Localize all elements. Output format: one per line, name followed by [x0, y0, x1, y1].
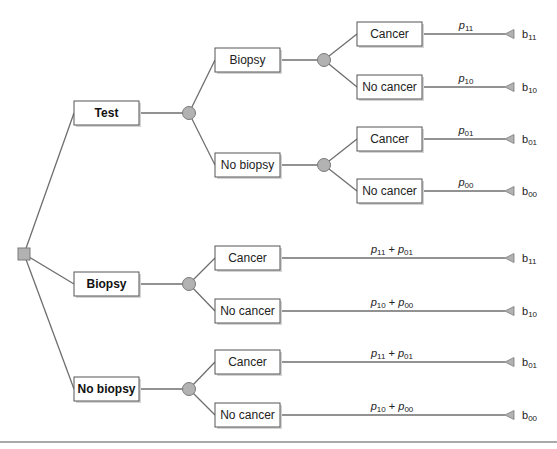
chance-node-test-biopsy-icon[interactable] — [318, 54, 331, 67]
node-box-no-biopsy[interactable]: No biopsy — [74, 377, 141, 403]
chance-node-test-icon[interactable] — [183, 107, 196, 120]
prob-label: p01 — [457, 124, 474, 138]
node-box-test-biopsy-no-cancer[interactable]: No cancer — [357, 75, 424, 101]
node-label: No cancer — [362, 80, 417, 94]
node-label: Cancer — [228, 355, 267, 369]
node-box-test-biopsy[interactable]: Biopsy — [215, 48, 282, 74]
terminal-triangle-icon[interactable] — [505, 135, 514, 144]
prob-label: p11 + p01 — [370, 347, 414, 361]
root-branches — [24, 113, 74, 389]
node-label-biopsy: Biopsy — [86, 277, 126, 291]
node-box-no-biopsy-cancer[interactable]: Cancer — [215, 350, 282, 376]
terminal-triangle-icon[interactable] — [505, 254, 514, 263]
node-box-test[interactable]: Test — [74, 101, 141, 127]
node-label: Cancer — [370, 132, 409, 146]
prob-label: p10 + p00 — [370, 400, 414, 414]
terminal-triangle-icon[interactable] — [505, 83, 514, 92]
payoff-label: b10 — [522, 305, 538, 319]
node-box-test-biopsy-cancer[interactable]: Cancer — [357, 22, 424, 48]
prob-label: p00 — [457, 176, 474, 190]
payoff-label: b01 — [522, 356, 538, 370]
decision-node-square-icon[interactable] — [18, 248, 30, 260]
payoff-label: b01 — [522, 133, 538, 147]
prob-label: p11 — [458, 19, 474, 33]
terminal-triangle-icon[interactable] — [505, 358, 514, 367]
node-label: Biopsy — [229, 53, 265, 67]
terminal-triangle-icon[interactable] — [505, 187, 514, 196]
chance-node-biopsy-icon[interactable] — [183, 278, 196, 291]
chance-node-no-biopsy-icon[interactable] — [183, 383, 196, 396]
prob-label: p11 + p01 — [370, 243, 414, 257]
payoff-label: b11 — [522, 28, 537, 42]
payoff-label: b10 — [522, 81, 538, 95]
node-label: No cancer — [220, 408, 275, 422]
chance-node-test-no-biopsy-icon[interactable] — [318, 159, 331, 172]
node-box-biopsy-no-cancer[interactable]: No cancer — [215, 299, 282, 325]
terminal-triangle-icon[interactable] — [505, 307, 514, 316]
node-box-no-biopsy-no-cancer[interactable]: No cancer — [215, 403, 282, 429]
payoff-label: b11 — [522, 252, 537, 266]
node-label: No biopsy — [221, 158, 274, 172]
prob-label: p10 + p00 — [370, 296, 414, 310]
node-label: Cancer — [370, 27, 409, 41]
decision-tree-diagram: Test Biopsy No biopsy Biopsy No biopsy C… — [0, 0, 557, 449]
node-box-test-no-biopsy[interactable]: No biopsy — [215, 153, 282, 179]
node-box-test-no-biopsy-no-cancer[interactable]: No cancer — [357, 179, 424, 205]
node-box-biopsy-cancer[interactable]: Cancer — [215, 246, 282, 272]
node-box-test-no-biopsy-cancer[interactable]: Cancer — [357, 127, 424, 153]
node-box-biopsy[interactable]: Biopsy — [74, 272, 141, 298]
node-label: No cancer — [220, 304, 275, 318]
node-label-test: Test — [95, 106, 119, 120]
node-label-no-biopsy: No biopsy — [77, 382, 135, 396]
payoff-label: b00 — [522, 409, 538, 423]
node-label: No cancer — [362, 184, 417, 198]
terminal-triangle-icon[interactable] — [505, 30, 514, 39]
terminal-nodes — [505, 30, 514, 420]
payoff-label: b00 — [522, 185, 538, 199]
node-label: Cancer — [228, 251, 267, 265]
prob-label: p10 — [457, 72, 474, 86]
terminal-triangle-icon[interactable] — [505, 411, 514, 420]
